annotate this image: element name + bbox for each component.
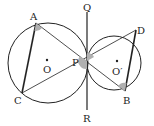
label-o-prime: O′ (112, 66, 123, 77)
label-r: R (83, 113, 91, 124)
segment-ac (22, 23, 36, 93)
label-p: P (72, 57, 79, 68)
label-q: Q (83, 2, 91, 13)
tangent-circles-diagram: A C P O Q R D B O′ (0, 0, 154, 126)
label-b: B (123, 95, 130, 106)
center-o-dot (46, 59, 48, 61)
label-d: D (137, 25, 145, 36)
center-o-prime-dot (116, 60, 118, 62)
label-o: O (43, 64, 51, 75)
label-a: A (29, 11, 38, 22)
label-c: C (14, 95, 22, 106)
